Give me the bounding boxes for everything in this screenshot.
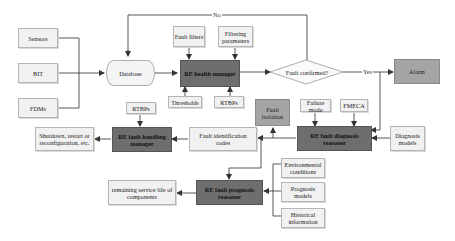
fdms-box: FDMs	[18, 98, 58, 118]
fault-identification-box: Fault identification codes	[189, 127, 257, 151]
prognosis-reasoner-label-2: reasoner	[218, 193, 241, 200]
prognosis-reasoner-box: RE fault prognosis reasoner	[196, 180, 263, 205]
fault-management-diagram: Sensors BIT FDMs Database Fault filters …	[0, 0, 455, 241]
sensors-label: Sensors	[28, 35, 47, 42]
prognosis-models-label: Prognosis models	[286, 185, 320, 199]
alarm-label: Alarm	[409, 68, 425, 75]
prognosis-models-box: Prognosis models	[281, 182, 325, 202]
handling-manager-box: RE fault handling manager	[112, 127, 172, 152]
shutdown-output-label: Shutdown, restart or reconfiguration, et…	[37, 132, 93, 146]
filtering-parameters-label: Filtering parameters	[219, 30, 252, 44]
alarm-box: Alarm	[394, 59, 440, 84]
thresholds-label: Thresholds	[171, 99, 199, 106]
sensors-box: Sensors	[18, 28, 58, 48]
bit-box: BIT	[18, 63, 58, 83]
handling-manager-label-1: RE fault handling	[118, 133, 165, 140]
shutdown-output-box: Shutdown, restart or reconfiguration, et…	[35, 127, 94, 151]
fault-isolation-label: Fault isolation	[256, 106, 289, 120]
rtbps-handling-label: RTBPs	[132, 105, 150, 112]
filtering-parameters-box: Filtering parameters	[218, 26, 253, 47]
no-label: No	[212, 11, 222, 18]
environmental-conditions-label: Environmental conditions	[282, 161, 324, 175]
fmeca-label: FMECA	[343, 102, 364, 109]
health-manager-label: RE health manager	[184, 70, 236, 77]
bit-label: BIT	[33, 70, 43, 77]
health-manager-box: RE health manager	[180, 60, 240, 87]
fault-filters-box: Fault filters	[173, 26, 205, 47]
database-label: Database	[119, 70, 142, 77]
rtbps-health-box: RTBPs	[214, 96, 244, 108]
fdms-label: FDMs	[30, 105, 46, 112]
fault-filters-label: Fault filters	[175, 33, 204, 40]
database-cylinder: Database	[106, 60, 155, 86]
environmental-conditions-box: Environmental conditions	[281, 158, 325, 178]
diagnosis-models-box: Diagnosis models	[390, 126, 425, 151]
yes-label: Yes	[362, 68, 373, 75]
historical-information-label: Historical information	[282, 211, 324, 225]
diagnosis-reasoner-box: RE fault diagnosis reasoner	[297, 126, 372, 151]
thresholds-box: Thresholds	[168, 96, 202, 108]
remaining-life-output-label: remaining service life of components	[110, 186, 174, 200]
diagnosis-reasoner-label-2: reasoner	[323, 139, 346, 146]
remaining-life-output-box: remaining service life of components	[108, 180, 176, 205]
rtbps-health-label: RTBPs	[220, 99, 238, 106]
decision-label: Fault confirmed?	[278, 69, 336, 76]
historical-information-box: Historical information	[281, 208, 325, 228]
fmeca-box: FMECA	[340, 99, 368, 112]
failure-mode-box: Failure mode	[300, 99, 331, 112]
fault-identification-label: Fault identification codes	[197, 132, 249, 146]
diagnosis-models-label: Diagnosis models	[391, 132, 424, 146]
handling-manager-label-2: manager	[130, 140, 153, 147]
fault-isolation-box: Fault isolation	[255, 99, 290, 126]
rtbps-handling-box: RTBPs	[126, 102, 156, 114]
prognosis-reasoner-label-1: RE fault prognosis	[205, 186, 254, 193]
failure-mode-label: Failure mode	[301, 99, 330, 113]
diagnosis-reasoner-label-1: RE fault diagnosis	[310, 132, 358, 139]
